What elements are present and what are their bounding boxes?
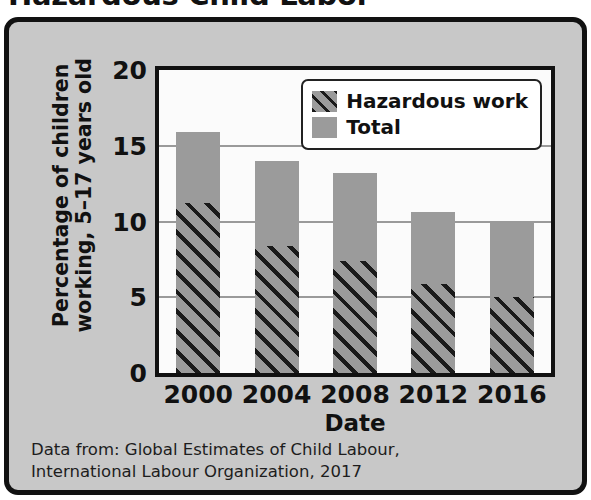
page-title: Hazardous Child Labor — [8, 0, 371, 12]
legend-swatch-solid-icon — [312, 117, 337, 138]
y-axis-title: Percentage of children working, 5–17 yea… — [50, 45, 97, 345]
y-axis-tick-labels: 05101520 — [105, 66, 147, 377]
bar-hazardous — [255, 246, 299, 373]
bar-slot — [255, 70, 299, 373]
y-axis-title-line1: Percentage of children — [50, 45, 73, 345]
legend-label: Total — [346, 115, 401, 139]
y-tick-label: 10 — [105, 207, 147, 236]
legend-item: Hazardous work — [312, 88, 528, 114]
plot-inner: Hazardous workTotal — [159, 70, 551, 373]
legend: Hazardous workTotal — [301, 79, 542, 150]
legend-label: Hazardous work — [346, 89, 528, 113]
x-axis-tick-labels: 20002004200820122016 — [155, 380, 555, 414]
chart-page: Hazardous Child Labor Percentage of chil… — [0, 0, 591, 500]
bar-slot — [176, 70, 220, 373]
bar-hazardous — [333, 261, 377, 373]
x-tick-label: 2004 — [242, 380, 312, 409]
x-tick-label: 2016 — [477, 380, 547, 409]
legend-item: Total — [312, 114, 528, 140]
chart-footnote: Data from: Global Estimates of Child Lab… — [31, 439, 501, 484]
y-axis-title-line2: working, 5–17 years old — [73, 45, 96, 345]
x-tick-label: 2012 — [399, 380, 469, 409]
plot-area: Hazardous workTotal — [155, 66, 555, 377]
y-tick-label: 0 — [105, 359, 147, 388]
y-tick-label: 5 — [105, 283, 147, 312]
chart-title-strip: Hazardous Child Labor — [0, 0, 591, 16]
y-tick-label: 20 — [105, 56, 147, 85]
bar-hazardous — [411, 284, 455, 373]
x-axis-title: Date — [155, 410, 555, 436]
x-tick-label: 2008 — [320, 380, 390, 409]
footnote-line1: Data from: Global Estimates of Child Lab… — [31, 439, 501, 461]
y-tick-label: 15 — [105, 131, 147, 160]
bar-hazardous — [490, 297, 534, 373]
legend-swatch-hatched-icon — [312, 91, 337, 112]
bar-hazardous — [176, 203, 220, 373]
chart-panel: Percentage of children working, 5–17 yea… — [4, 17, 587, 495]
footnote-line2: International Labour Organization, 2017 — [31, 461, 501, 483]
x-tick-label: 2000 — [163, 380, 233, 409]
